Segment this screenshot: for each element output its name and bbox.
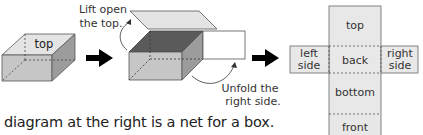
arrow-right-icon [252, 49, 279, 67]
arrowhead-icon [231, 62, 237, 68]
net-bottom-label: bottom [335, 86, 375, 99]
lift-label-line2: the top. [79, 17, 122, 30]
box-net-diagram: top Lift open the top. Unfold the right … [0, 0, 423, 135]
net-top-label: top [346, 19, 364, 32]
box-net: top left side back right side bottom fro… [290, 6, 418, 135]
unfold-curve-arrow [192, 66, 234, 83]
lifted-lid [130, 11, 217, 29]
net-right-label-line2: side [389, 59, 412, 72]
unfold-label-line2: right side. [225, 95, 280, 108]
closed-box: top [2, 34, 75, 81]
box1-front-face [2, 55, 52, 81]
net-back-label: back [342, 54, 369, 67]
net-left-label-line2: side [298, 59, 321, 72]
net-front-label: front [342, 121, 369, 134]
caption-text: diagram at the right is a net for a box. [4, 114, 274, 130]
box2-front-face [129, 52, 182, 80]
lift-label-line1: Lift open [79, 3, 127, 16]
unfold-label-line1: Unfold the [221, 82, 278, 95]
opened-box: Lift open the top. Unfold the right side… [79, 3, 281, 108]
unfolded-right-side [203, 31, 245, 59]
box1-top-label: top [35, 37, 54, 51]
arrow-right-icon [86, 49, 113, 67]
